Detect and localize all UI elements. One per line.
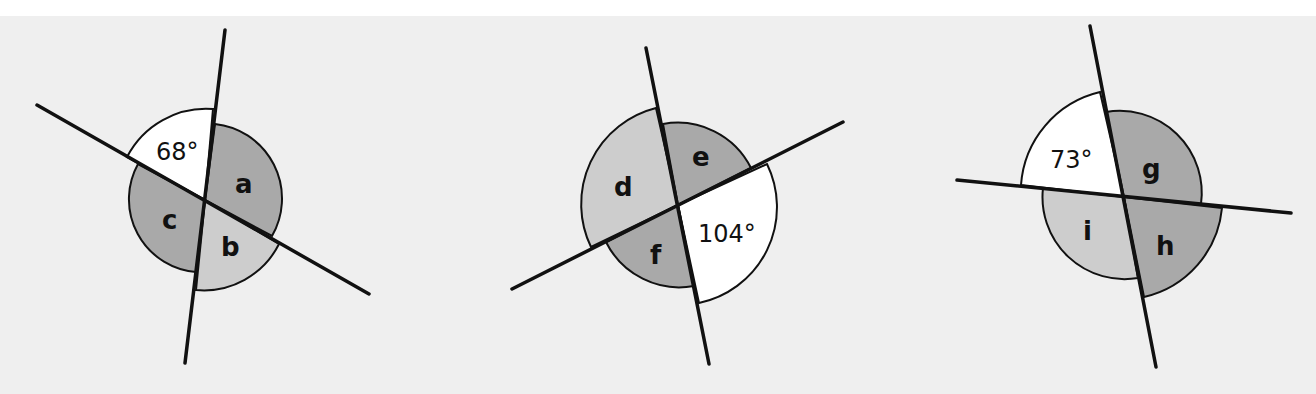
diagram-1: 68° a b c xyxy=(37,30,369,363)
angle-104-label: 104° xyxy=(698,220,756,248)
angle-a-label: a xyxy=(235,169,253,199)
angle-g-label: g xyxy=(1142,154,1161,184)
angle-73-label: 73° xyxy=(1050,146,1093,174)
angle-d-label: d xyxy=(614,172,633,202)
angle-68-label: 68° xyxy=(156,138,199,166)
angles-diagram-svg: 68° a b c d e f 104° xyxy=(0,0,1316,394)
angle-c-label: c xyxy=(162,205,177,235)
angle-h-label: h xyxy=(1156,231,1175,261)
diagram-2: d e f 104° xyxy=(512,48,843,364)
figure-canvas: 68° a b c d e f 104° xyxy=(0,0,1316,394)
angle-b-label: b xyxy=(221,232,240,262)
angle-i-label: i xyxy=(1083,216,1092,246)
sector-73-white xyxy=(1021,92,1124,197)
diagram-3: 73° g h i xyxy=(957,26,1291,367)
angle-f-label: f xyxy=(650,240,662,270)
angle-e-label: e xyxy=(692,142,710,172)
